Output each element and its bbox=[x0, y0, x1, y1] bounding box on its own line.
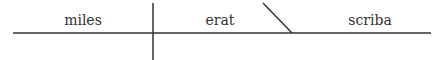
verb-word: erat bbox=[206, 12, 235, 28]
subject-word: miles bbox=[64, 12, 102, 28]
predicate-nominative-word: scriba bbox=[348, 12, 392, 28]
sentence-diagram: miles erat scriba bbox=[0, 0, 441, 60]
predicate-nominative-divider bbox=[263, 3, 292, 33]
